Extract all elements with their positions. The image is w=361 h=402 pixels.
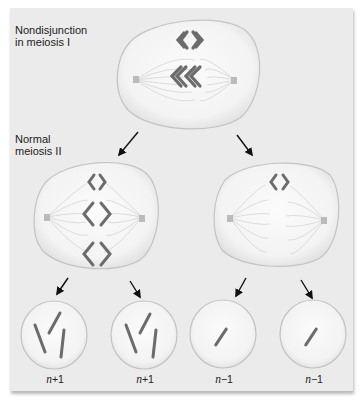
- caption-num: 1: [227, 373, 233, 385]
- arrow-icon: [237, 135, 252, 155]
- parent-cell: [117, 20, 259, 129]
- centriole-right: [231, 77, 237, 84]
- stage-label-meiosis-2: Normal meiosis II: [15, 133, 61, 157]
- gamete-3: [190, 300, 256, 368]
- caption-num: 1: [317, 373, 323, 385]
- stage-label-line: Nondisjunction: [15, 24, 87, 36]
- arrow-icon: [130, 281, 140, 297]
- gamete-caption-4: n−1: [289, 373, 339, 385]
- stage-label-line: in meiosis I: [15, 36, 87, 48]
- meiosis-diagram: [0, 0, 361, 402]
- arrow-icon: [236, 278, 246, 296]
- caption-num: 1: [58, 373, 64, 385]
- meiosis2-right-cell: [214, 163, 339, 266]
- centriole-left: [133, 76, 139, 83]
- gamete-2: [111, 301, 177, 369]
- arrow-icon: [119, 132, 138, 155]
- caption-num: 1: [148, 373, 154, 385]
- arrow-icon: [57, 278, 68, 294]
- gamete-4: [280, 300, 346, 368]
- stage-label-line: meiosis II: [15, 145, 61, 157]
- arrow-icon: [301, 280, 312, 298]
- stage-label-line: Normal: [15, 133, 61, 145]
- gamete-caption-2: n+1: [120, 373, 170, 385]
- gamete-caption-3: n−1: [199, 373, 249, 385]
- stage-label-meiosis-1: Nondisjunction in meiosis I: [15, 24, 87, 48]
- meiosis2-left-cell: [34, 163, 158, 269]
- gamete-1: [21, 301, 87, 369]
- gamete-caption-1: n+1: [30, 373, 80, 385]
